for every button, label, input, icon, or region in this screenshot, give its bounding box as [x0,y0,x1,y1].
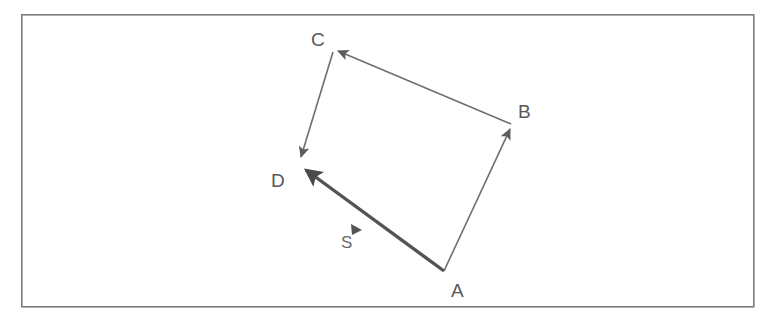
diagram-canvas: A B C D S [0,0,778,330]
vector-c-to-d [301,52,333,157]
vertex-label-a: A [451,280,464,301]
vertex-label-c: C [311,29,325,50]
vector-b-to-c [338,51,511,124]
vector-a-to-d-resultant [306,170,444,271]
vertex-label-d: D [271,170,285,191]
outer-border [22,15,754,307]
vector-a-to-b [444,129,510,271]
direction-marker-triangle [351,224,362,235]
vector-diagram-figure: A B C D S [0,0,778,330]
vertex-label-b: B [518,101,531,122]
vector-label-s: S [341,233,352,252]
